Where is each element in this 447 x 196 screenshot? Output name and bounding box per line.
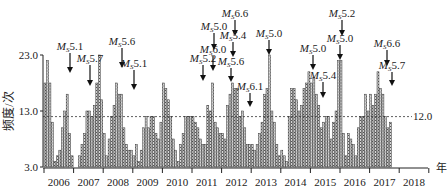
bar <box>352 145 354 167</box>
bar <box>350 139 352 167</box>
x-tick-label: 2007 <box>77 176 100 188</box>
bar <box>303 89 305 167</box>
bar <box>241 111 243 167</box>
bar <box>227 105 229 167</box>
x-tick-label: 2013 <box>255 176 278 188</box>
earthquake-annotation: MS5.1 <box>120 57 147 90</box>
bar <box>150 117 152 167</box>
x-axis-label: 年 <box>436 161 447 174</box>
bar <box>249 145 251 167</box>
arrow-head-icon <box>131 84 137 90</box>
x-tick-label: 2017 <box>373 176 396 188</box>
bar <box>259 133 261 167</box>
svg-text:MS5.6: MS5.6 <box>108 35 136 49</box>
bar <box>382 94 384 167</box>
bar <box>108 139 110 167</box>
bar <box>296 100 298 167</box>
bar <box>138 161 140 167</box>
bar <box>340 61 342 167</box>
bar <box>264 94 266 167</box>
bar <box>288 117 290 167</box>
arrow-head-icon <box>266 49 272 55</box>
bar <box>162 83 164 167</box>
x-tick-label: 2012 <box>225 176 247 188</box>
bar <box>128 150 130 167</box>
bar <box>51 122 53 167</box>
bar <box>281 150 283 167</box>
x-tick-label: 2018 <box>403 176 426 188</box>
bar <box>182 133 184 167</box>
bar <box>239 117 241 167</box>
bar <box>342 133 344 167</box>
arrow-head-icon <box>247 101 253 107</box>
x-tick-label: 2011 <box>196 176 218 188</box>
bar <box>135 145 137 167</box>
svg-text:MS6.1: MS6.1 <box>236 80 263 94</box>
bar <box>116 83 118 167</box>
arrow-head-icon <box>210 65 216 71</box>
bar <box>88 111 90 167</box>
bar <box>219 133 221 167</box>
bar <box>157 139 159 167</box>
bar <box>325 117 327 167</box>
bar <box>44 83 46 167</box>
svg-text:MS5.1: MS5.1 <box>120 57 147 71</box>
bar <box>362 117 364 167</box>
earthquake-annotation: MS5.0 <box>299 42 327 70</box>
bar <box>192 117 194 167</box>
bar <box>155 133 157 167</box>
bar <box>283 156 285 167</box>
x-tick-label: 2009 <box>137 176 160 188</box>
bar <box>370 94 372 167</box>
arrow-head-icon <box>228 76 234 82</box>
bar <box>384 117 386 167</box>
earthquake-annotation: MS5.0 <box>255 27 283 55</box>
arrow-head-icon <box>200 75 206 81</box>
bar <box>204 145 206 167</box>
bar <box>170 117 172 167</box>
y-tick-label-13: 13.0 <box>19 105 39 117</box>
bar <box>345 156 347 167</box>
bar <box>64 111 66 167</box>
bar <box>143 128 145 167</box>
bar <box>49 83 51 167</box>
earthquake-frequency-chart: 12.0 23.0 13.0 3.0 频度/次 年 20062007200820… <box>0 0 447 196</box>
y-tick-label-3: 3.0 <box>24 161 38 173</box>
bar <box>301 105 303 167</box>
bar <box>246 145 248 167</box>
bar <box>335 111 337 167</box>
bar <box>347 133 349 167</box>
bar <box>71 156 73 167</box>
bar <box>81 145 83 167</box>
bar <box>130 150 132 167</box>
bar <box>98 55 100 167</box>
earthquake-annotation: MS5.6 <box>217 55 245 82</box>
bar <box>96 83 98 167</box>
bar <box>333 122 335 167</box>
bar <box>120 94 122 167</box>
bar <box>167 100 169 167</box>
bar <box>207 105 209 167</box>
bar <box>338 61 340 167</box>
arrow-head-icon <box>389 80 395 86</box>
bar <box>244 128 246 167</box>
bar <box>194 122 196 167</box>
bar <box>375 94 377 167</box>
bar <box>231 83 233 167</box>
bar <box>298 111 300 167</box>
svg-text:MS5.0: MS5.0 <box>299 42 327 56</box>
bar <box>83 133 85 167</box>
bar <box>293 89 295 167</box>
x-tick-label: 2008 <box>107 176 130 188</box>
bar <box>355 156 357 167</box>
earthquake-annotation: MS6.1 <box>236 80 263 107</box>
svg-text:MS6.6: MS6.6 <box>221 7 249 21</box>
bar <box>54 161 56 167</box>
earthquake-annotation: MS5.7 <box>378 59 406 86</box>
bar <box>328 117 330 167</box>
y-tick-label-23: 23.0 <box>19 49 39 61</box>
bar <box>56 156 58 167</box>
bar <box>372 105 374 167</box>
bar <box>310 83 312 167</box>
bar <box>387 128 389 167</box>
